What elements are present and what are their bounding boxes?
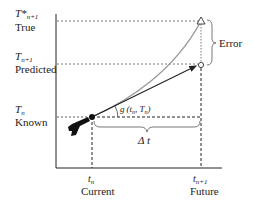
true-symbol: T*n+1 <box>15 7 38 21</box>
slope-angle-arc <box>115 106 118 117</box>
error-label: Error <box>219 37 243 49</box>
predicted-point <box>198 62 203 67</box>
slope-label: g(tn, Tn) <box>120 104 151 115</box>
known-symbol: Tn <box>15 103 25 117</box>
true-solution-curve <box>92 21 201 117</box>
delta-t-brace <box>94 121 200 132</box>
tn-caption: Current <box>81 185 115 197</box>
starting-pistol-icon <box>68 117 90 136</box>
predicted-symbol: Tn+1 <box>15 50 33 64</box>
delta-t-label: Δ t <box>137 134 151 146</box>
tn1-caption: Future <box>190 185 219 197</box>
known-point <box>89 114 95 120</box>
error-brace <box>207 20 216 65</box>
euler-step-diagram: T*n+1 True Tn+1 Predicted Tn Known tn Cu… <box>0 0 253 202</box>
known-caption: Known <box>15 116 48 128</box>
true-point <box>197 17 205 24</box>
predicted-caption: Predicted <box>15 63 57 75</box>
true-caption: True <box>15 21 35 33</box>
